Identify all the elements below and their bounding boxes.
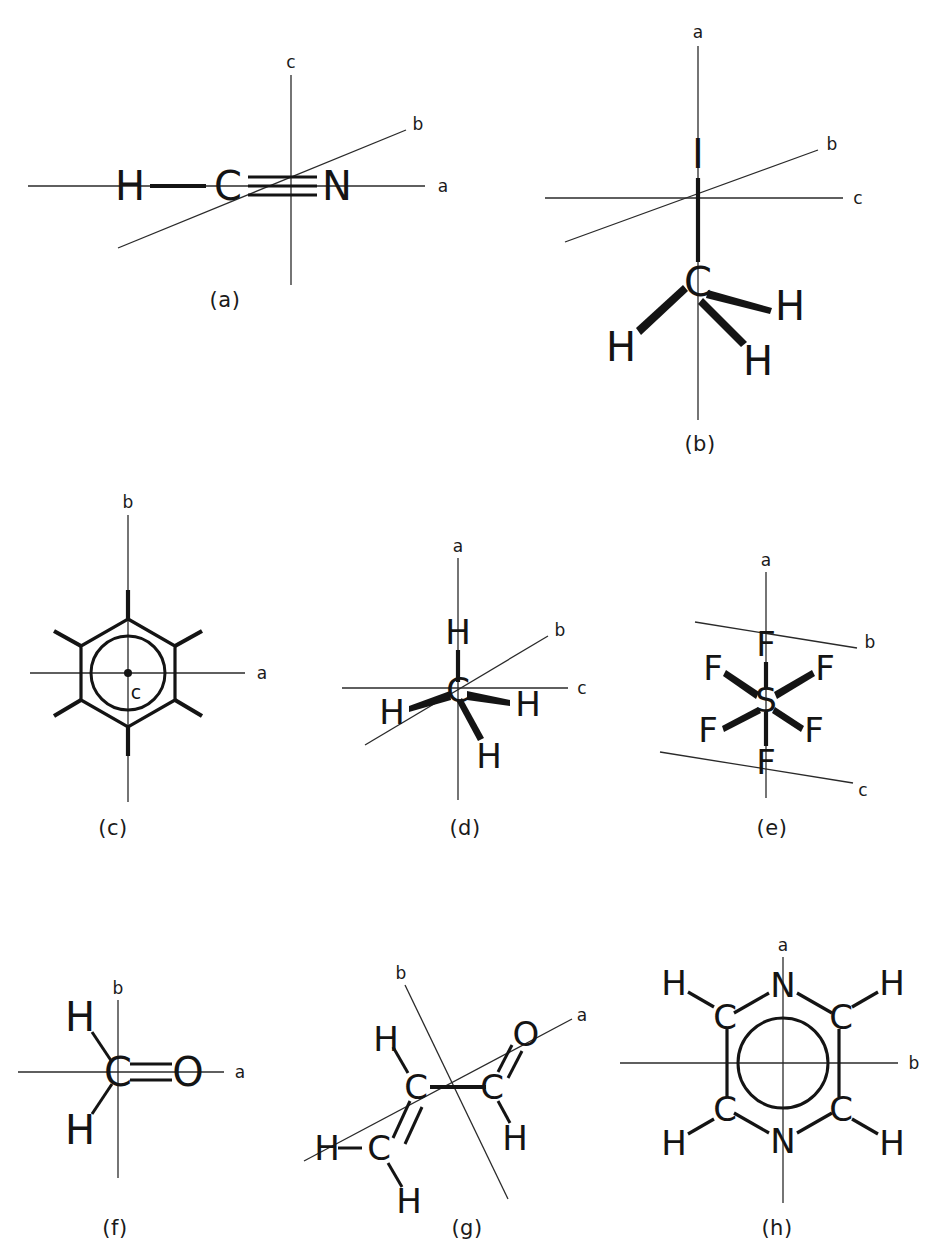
atom-f-lower-left: F: [698, 710, 718, 750]
panel-d-methane: a b c H C H H H: [330, 540, 620, 810]
axis-label-c: c: [577, 678, 586, 698]
bond-wedge-c-h-right: [706, 290, 772, 314]
panel-caption-d: (d): [430, 816, 500, 840]
atom-c-lower-left: C: [713, 1089, 737, 1129]
panel-b-methyl-iodide: a b c I C H H H: [540, 10, 940, 430]
atom-h-right: H: [515, 684, 541, 724]
ring-bond-n-top-c-ur: [797, 993, 832, 1013]
panel-g-acrolein: b a C C C O H H H H: [300, 935, 630, 1210]
bond-wedge-s-f-lower-right: [772, 707, 804, 732]
panel-caption-e: (e): [737, 816, 807, 840]
axis-label-a: a: [761, 550, 771, 570]
ring-bond-n-bot-c-ll: [734, 1113, 769, 1133]
axis-label-c: c: [286, 52, 295, 72]
ring-bond-lower-right: [175, 700, 202, 716]
axis-label-a: a: [693, 22, 703, 42]
axis-line-b: [118, 130, 406, 248]
bond-c1-o-outer: [508, 1051, 522, 1078]
bond-wedge-c-h-left: [636, 285, 688, 335]
axis-label-b: b: [555, 620, 566, 640]
axis-label-b: b: [909, 1053, 920, 1073]
axis-label-c: c: [858, 780, 867, 800]
atom-h-lower: H: [65, 1107, 95, 1153]
atom-h-bottom: H: [396, 1181, 422, 1221]
atom-h-top: H: [373, 1019, 399, 1059]
panel-caption-b: (b): [665, 432, 735, 456]
atom-n: N: [322, 163, 352, 209]
bond-c-ur-h: [852, 992, 878, 1007]
axis-label-b: b: [827, 134, 838, 154]
atom-c-lower-right: C: [829, 1089, 853, 1129]
atom-c3: C: [367, 1128, 391, 1168]
ring-bond-upper-left: [54, 631, 81, 646]
panel-a-hcn: c b a H C N: [0, 20, 470, 290]
panel-caption-c: (c): [78, 816, 148, 840]
bond-c3-c2-outer: [405, 1107, 422, 1144]
atom-i: I: [692, 131, 704, 177]
panel-caption-a: (a): [190, 288, 260, 312]
atom-o: O: [513, 1014, 540, 1054]
atom-n-bottom: N: [770, 1121, 795, 1161]
panel-c-benzene: b a c: [30, 480, 310, 810]
axis-label-c: c: [853, 188, 862, 208]
atom-s: S: [755, 680, 777, 720]
ring-bond-upper-right: [175, 631, 202, 646]
axis-c-center-dot: [124, 669, 132, 677]
atom-c: C: [104, 1049, 132, 1095]
atom-h-bottom: H: [476, 736, 502, 776]
bond-wedge-s-f-upper-left: [723, 670, 759, 699]
atom-h-left: H: [606, 324, 636, 370]
axis-label-b: b: [865, 632, 876, 652]
axis-label-b: b: [396, 963, 407, 983]
atom-h-right: H: [775, 283, 805, 329]
atom-h-top: H: [445, 612, 471, 652]
bond-c-ul-h: [688, 992, 714, 1007]
axis-label-a: a: [235, 1062, 245, 1082]
atom-c-upper-left: C: [713, 997, 737, 1037]
atom-f-upper-left: F: [703, 648, 723, 688]
ring-bond-c-lr-n-bot: [797, 1113, 832, 1133]
bond-wedge-c-h-bottom: [457, 698, 484, 741]
atom-h-left: H: [314, 1128, 340, 1168]
atom-h-upper-right: H: [879, 963, 905, 1003]
axis-label-a: a: [577, 1005, 587, 1025]
atom-c2: C: [404, 1067, 428, 1107]
axis-line-b: [695, 622, 857, 648]
axis-label-a: a: [453, 536, 463, 556]
atom-c: C: [214, 163, 242, 209]
bond-wedge-c-h-right: [467, 691, 510, 706]
bond-wedge-s-f-upper-right: [774, 670, 815, 699]
figure-root: c b a H C N (a) a b: [0, 0, 941, 1253]
panel-f-formaldehyde: b a C O H H: [10, 960, 280, 1210]
panel-e-sulfur-hexafluoride: a b c F F F F F F S: [620, 540, 930, 810]
atom-h-lower-right: H: [879, 1123, 905, 1163]
atom-c1: C: [480, 1067, 504, 1107]
atom-h-upper: H: [65, 994, 95, 1040]
atom-h-left: H: [379, 692, 405, 732]
axis-label-b: b: [413, 114, 424, 134]
atom-f-upper-right: F: [815, 648, 835, 688]
atom-h-upper-left: H: [661, 963, 687, 1003]
atom-o: O: [172, 1049, 203, 1095]
panel-h-pyrazine: a b N N C C C C H H H: [620, 935, 940, 1210]
atom-f-top: F: [756, 624, 776, 664]
axis-label-b: b: [113, 978, 124, 998]
axis-label-a: a: [257, 663, 267, 683]
atom-h-lower-left: H: [661, 1123, 687, 1163]
atom-f-lower-right: F: [804, 710, 824, 750]
panel-caption-h: (h): [742, 1216, 812, 1240]
axis-label-b: b: [123, 492, 134, 512]
bond-c-lr-h: [852, 1119, 878, 1134]
axis-label-c: c: [131, 681, 141, 703]
atom-h-bottom: H: [743, 338, 773, 384]
panel-caption-g: (g): [432, 1216, 502, 1240]
ring-bond-lower-left: [54, 700, 81, 716]
atom-h-right: H: [502, 1118, 528, 1158]
atom-c: C: [446, 670, 470, 710]
panel-caption-f: (f): [80, 1216, 150, 1240]
ring-bond-c-ul-n-top: [734, 993, 769, 1013]
bond-c-ll-h: [688, 1119, 714, 1134]
axis-label-a: a: [778, 935, 788, 955]
atom-n-top: N: [770, 965, 795, 1005]
atom-h: H: [115, 163, 145, 209]
